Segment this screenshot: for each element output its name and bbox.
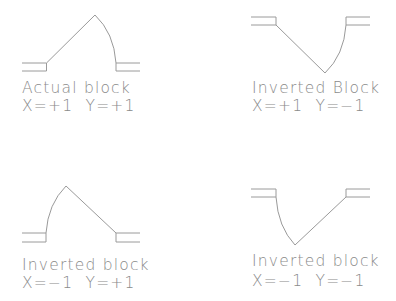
right-wall: [346, 189, 370, 197]
block-name-label: Inverted block: [22, 256, 150, 274]
block-name-label: Inverted block: [252, 252, 380, 270]
right-wall: [346, 17, 370, 25]
door-leaf-line: [295, 197, 346, 245]
left-wall: [251, 17, 276, 25]
block-name-label: Inverted Block: [252, 79, 380, 97]
right-wall: [116, 63, 140, 71]
block-inverted-x: Inverted block X=−1 Y=+1: [22, 186, 150, 292]
block-inverted-y: Inverted Block X=+1 Y=−1: [251, 17, 380, 115]
block-name-label: Actual block: [22, 79, 131, 97]
left-wall: [22, 63, 47, 71]
door-swing-arc: [325, 25, 346, 73]
block-inverted-xy: Inverted block X=−1 Y=−1: [251, 189, 380, 290]
left-wall: [251, 189, 276, 197]
block-scale-label: X=−1 Y=−1: [252, 272, 366, 290]
right-wall: [116, 233, 140, 242]
door-symbol-actual: [22, 15, 140, 71]
door-symbol-inverted-xy: [251, 189, 370, 245]
block-scale-label: X=+1 Y=−1: [252, 97, 366, 115]
block-actual: Actual block X=+1 Y=+1: [22, 15, 140, 115]
door-leaf-line: [66, 186, 116, 233]
door-symbol-inverted-y: [251, 17, 370, 73]
door-leaf-line: [47, 15, 96, 63]
block-mirror-diagram: Actual block X=+1 Y=+1 Inverted Block X=…: [0, 0, 396, 301]
door-symbol-inverted-x: [22, 186, 140, 242]
block-scale-label: X=−1 Y=+1: [22, 274, 136, 292]
door-leaf-line: [276, 25, 325, 73]
left-wall: [22, 233, 46, 242]
block-scale-label: X=+1 Y=+1: [22, 97, 136, 115]
door-swing-arc: [95, 15, 116, 63]
door-swing-arc: [46, 186, 66, 233]
door-swing-arc: [276, 197, 295, 245]
